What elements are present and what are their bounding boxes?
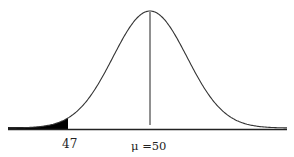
cutoff-label: 47 [62, 137, 77, 151]
bell-curve [8, 11, 287, 128]
normal-curve-chart: 47 μ =50 [0, 0, 294, 157]
mean-label: μ =50 [131, 139, 166, 153]
